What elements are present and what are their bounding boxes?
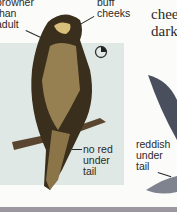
juvenile-age-symbol-icon [94, 45, 108, 59]
page-footer-bar [0, 207, 177, 212]
label-buff-cheeks: buff cheeks [97, 0, 130, 19]
label-no-red-under-tail: no red under tail [83, 144, 113, 177]
label-browner-than-adult: browner than adult [0, 0, 34, 30]
adjacent-column-text: chee dark [151, 6, 177, 40]
label-reddish-under-tail: reddish under tail [136, 139, 170, 172]
leader-line-no-red [72, 149, 82, 150]
